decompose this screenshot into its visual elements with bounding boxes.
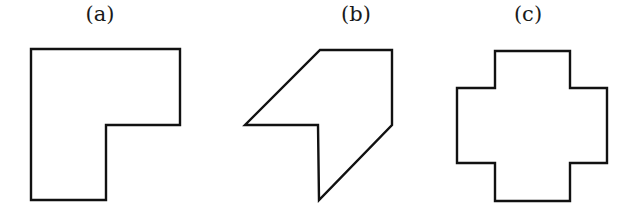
shapes-svg xyxy=(0,0,632,217)
figure-canvas: (a) (b) (c) xyxy=(0,0,632,217)
shape-c-cross-polygon xyxy=(457,51,607,201)
shape-a-l-polygon xyxy=(31,49,180,200)
shape-b-sheared-polygon xyxy=(245,50,392,200)
